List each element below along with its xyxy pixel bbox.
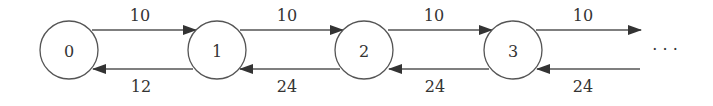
backward-edge-2-1: 24 [240,69,340,96]
edge-label: 12 [131,77,151,96]
edge-label: 24 [277,77,297,96]
node-3: 3 [484,21,542,79]
node-label: 3 [508,42,518,61]
backward-edge-more-3: 24 [537,69,640,96]
node-label: 2 [359,42,369,61]
forward-edge-1-2: 10 [240,6,343,30]
edge-label: 24 [573,77,593,96]
node-0: 0 [40,21,98,79]
node-label: 0 [64,42,74,61]
edge-label: 10 [277,6,297,25]
state-diagram: 10 10 10 10 12 24 24 24 0 1 2 [0,0,713,106]
edge-label: 10 [424,6,444,25]
forward-edge-3-more: 10 [536,6,641,30]
forward-edge-2-3: 10 [388,6,492,30]
edge-label: 24 [425,77,445,96]
forward-edge-0-1: 10 [92,6,196,30]
edge-label: 10 [130,6,150,25]
node-label: 1 [212,42,222,61]
edge-label: 10 [573,6,593,25]
backward-edge-1-0: 12 [93,69,193,96]
node-2: 2 [335,21,393,79]
continuation-ellipsis: · · · [652,40,677,59]
backward-edge-3-2: 24 [389,69,489,96]
node-1: 1 [188,21,246,79]
